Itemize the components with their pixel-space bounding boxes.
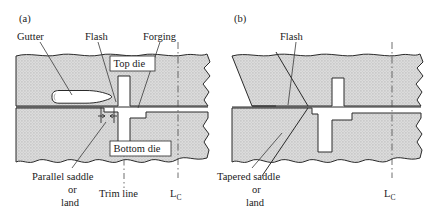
- flash-label-b: Flash: [280, 31, 304, 42]
- lc-label-b: LC: [384, 188, 395, 202]
- trim-line-label-a: Trim line: [99, 188, 138, 199]
- saddle-label-line2-b: or: [252, 184, 261, 195]
- lc-subscript-b: C: [390, 193, 395, 202]
- lc-subscript-a: C: [176, 193, 181, 202]
- saddle-label-line1-b: Tapered saddle: [217, 171, 280, 182]
- saddle-label-line2-a: or: [68, 184, 77, 195]
- panel-a-id: (a): [19, 13, 31, 25]
- forging-die-figure: (a) Gutter Flash Forging Top die Bottom …: [0, 0, 432, 220]
- gutter-cavity-a: [52, 91, 112, 104]
- saddle-label-line1-a: Parallel saddle: [32, 171, 94, 182]
- lc-label-a: LC: [170, 188, 181, 202]
- bottom-die-body-b: [232, 108, 422, 162]
- saddle-label-line3-b: land: [246, 197, 265, 208]
- flash-label-a: Flash: [85, 31, 109, 42]
- panel-b-id: (b): [234, 13, 247, 25]
- panel-a: (a) Gutter Flash Forging Top die Bottom …: [16, 13, 210, 208]
- bottom-die-label-a: Bottom die: [114, 143, 161, 154]
- forging-label-a: Forging: [143, 31, 177, 42]
- top-die-body-b: [232, 54, 423, 106]
- top-die-label-a: Top die: [114, 58, 146, 69]
- gutter-label-a: Gutter: [17, 31, 44, 42]
- diagram-canvas: (a) Gutter Flash Forging Top die Bottom …: [0, 0, 432, 220]
- saddle-label-line3-a: land: [61, 197, 80, 208]
- panel-b: (b) Flash Tapered saddle or land LC: [217, 13, 423, 208]
